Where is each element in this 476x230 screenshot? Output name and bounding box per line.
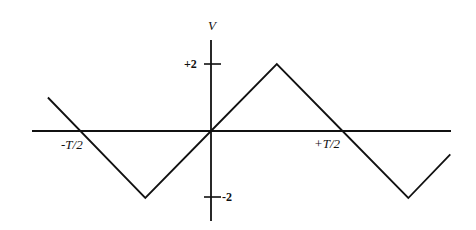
y-tick-label-minus-2: -2	[222, 191, 232, 203]
x-tick-label-plus-half-period: +T/2	[314, 137, 340, 150]
x-tick-label-minus-half-period: -T/2	[61, 138, 83, 151]
y-tick-label-plus-2: +2	[184, 58, 197, 70]
triangle-wave-chart	[0, 0, 476, 230]
y-axis-label: V	[208, 19, 216, 32]
